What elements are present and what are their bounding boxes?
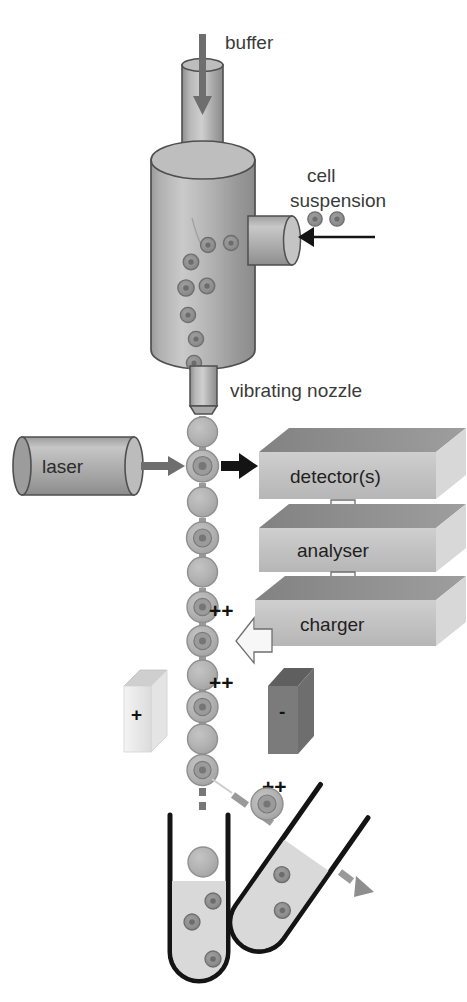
vibrating-nozzle-label: vibrating nozzle (230, 380, 362, 401)
detector-box-label: detector(s) (290, 466, 381, 487)
deflection-plate-positive: + (124, 670, 167, 752)
droplet-charged-1 (187, 626, 218, 657)
laser-back-cap (13, 437, 31, 495)
diagram-canvas: ++ ++ ++ laser detector(s) analyser (0, 0, 467, 1002)
detector-box-group: detector(s) (259, 428, 466, 499)
droplet (188, 557, 218, 587)
laser-group: laser (13, 437, 185, 495)
analyser-box-group: analyser (259, 504, 466, 572)
plate-negative-sign: - (279, 701, 285, 722)
analyser-box-label: analyser (297, 540, 369, 561)
droplet-with-cell-interrogated (187, 450, 219, 482)
laser-aperture (125, 437, 143, 495)
droplet (188, 724, 218, 754)
detector-box-top (259, 428, 466, 452)
buffer-label: buffer (225, 32, 274, 53)
cell-suspension-label-line2: suspension (290, 190, 386, 211)
charger-box-label: charger (300, 614, 365, 635)
nozzle-tip (190, 406, 217, 414)
analyser-box-top (259, 504, 466, 528)
vibrating-nozzle-group (190, 366, 217, 414)
droplet (188, 487, 218, 517)
cell-suspension-label-line1: cell (307, 165, 336, 186)
tube-left-falling-droplet (188, 847, 218, 877)
sheath-chamber-group (151, 141, 255, 389)
sample-inlet-group (248, 212, 375, 265)
deflection-plate-negative: - (268, 668, 314, 754)
nozzle-body (190, 366, 217, 406)
cell-suspension-arrow-icon (298, 227, 375, 247)
sample-inlet-rim (284, 216, 301, 265)
charger-box-top (255, 576, 466, 600)
collection-tube-left (170, 815, 228, 981)
laser-label: laser (42, 456, 84, 477)
cell-sorter-diagram: ++ ++ ++ laser detector(s) analyser (0, 0, 467, 1002)
droplet (188, 417, 218, 447)
droplet-charged-2 (187, 692, 218, 723)
charge-marker-2: ++ (209, 671, 234, 694)
laser-beam-arrow-icon (141, 456, 185, 476)
plate-positive-sign: + (131, 704, 142, 725)
chamber-top-rim (151, 141, 255, 179)
deflection-arrowhead-icon (354, 876, 374, 897)
suspension-cells (308, 212, 344, 226)
scatter-signal-arrow-icon (221, 453, 258, 479)
charger-box-group: charger (255, 576, 466, 646)
charge-marker-1: ++ (209, 599, 234, 622)
droplet-with-cell (187, 522, 219, 554)
deflected-droplet-with-cell (251, 788, 283, 820)
